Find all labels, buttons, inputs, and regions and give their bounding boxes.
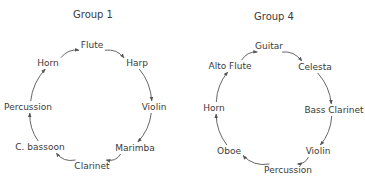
cycle-arrows — [0, 0, 365, 186]
group-1-node-violin: Violin — [142, 102, 167, 113]
cycle-arrow — [106, 154, 120, 160]
group-4-node-bass-clarinet: Bass Clarinet — [304, 105, 363, 116]
cycle-arrow — [243, 156, 269, 165]
group-1-node-harp: Harp — [126, 58, 148, 69]
group-1-node-clarinet: Clarinet — [74, 161, 109, 172]
group-1-title: Group 1 — [73, 9, 113, 21]
group-1-node-flute: Flute — [81, 40, 103, 51]
cycle-arrow — [139, 69, 151, 101]
group-4-node-oboe: Oboe — [217, 146, 241, 157]
cycle-arrow — [216, 114, 227, 145]
group-4-node-celesta: Celesta — [298, 62, 332, 73]
cycle-arrow — [31, 69, 46, 101]
group-1-node-percussion: Percussion — [4, 102, 52, 113]
group-1-node-c-bassoon: C. bassoon — [15, 142, 64, 153]
group-4-node-violin: Violin — [306, 146, 331, 157]
cycle-arrow — [61, 50, 79, 58]
group-4-node-guitar: Guitar — [255, 41, 283, 52]
cycle-arrow — [282, 52, 302, 61]
group-1-node-horn: Horn — [37, 58, 59, 69]
group-4-node-horn: Horn — [203, 103, 225, 114]
cycle-arrow — [318, 73, 332, 104]
cycle-arrow — [298, 157, 309, 164]
cycle-arrow — [242, 52, 258, 60]
cycle-arrow — [216, 72, 227, 102]
cycle-arrow — [320, 116, 331, 145]
cycle-arrow — [138, 113, 151, 142]
cycle-arrow — [56, 153, 75, 161]
group-4-node-percussion: Percussion — [264, 165, 312, 176]
cycle-arrow — [30, 113, 38, 141]
group-4-node-alto-flute: Alto Flute — [208, 61, 251, 72]
group-4-title: Group 4 — [254, 11, 294, 23]
group-1-node-marimba: Marimba — [115, 143, 154, 154]
cycle-arrow — [105, 50, 124, 58]
